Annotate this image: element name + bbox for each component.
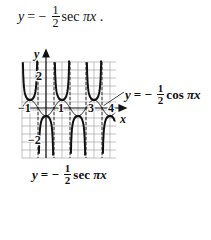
sec-fraction: 12 xyxy=(64,163,72,186)
svg-text:4: 4 xyxy=(108,101,114,115)
svg-text:2: 2 xyxy=(36,69,42,83)
svg-text:x: x xyxy=(119,112,126,126)
sec-den: 2 xyxy=(65,175,71,186)
svg-text:−2: −2 xyxy=(28,133,41,147)
svg-text:y: y xyxy=(32,47,40,61)
sec-eq: = − xyxy=(41,167,59,183)
svg-text:3: 3 xyxy=(88,101,94,115)
cos-eq: = − xyxy=(134,87,152,103)
cos-lhs: y xyxy=(125,87,131,103)
cos-func: cos xyxy=(166,87,183,103)
svg-text:1: 1 xyxy=(58,101,64,115)
sec-lhs: y xyxy=(32,167,38,183)
sec-arg: πx xyxy=(93,167,107,183)
svg-text:−1: −1 xyxy=(18,101,31,115)
cos-curve-label: y = − 12 cos πx xyxy=(125,83,201,106)
sec-func: sec xyxy=(73,167,90,183)
cos-den: 2 xyxy=(158,95,164,106)
sec-curve-label: y = − 12 sec πx xyxy=(32,163,107,186)
cos-fraction: 12 xyxy=(157,83,165,106)
cos-arg: πx xyxy=(187,87,201,103)
